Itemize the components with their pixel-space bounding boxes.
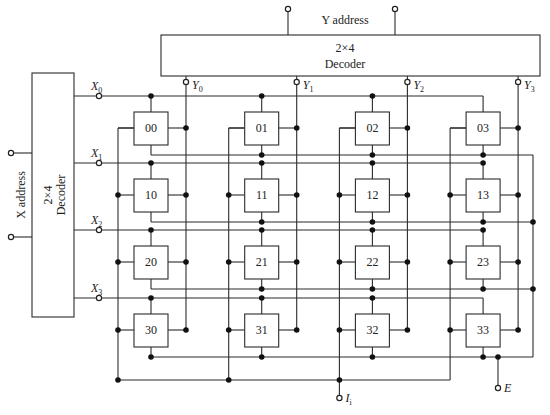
x-decoder: X address 2×4 Decoder [8, 73, 74, 317]
out-bus-dot [530, 219, 536, 225]
in-junction-dot [226, 259, 232, 265]
out-junction-dot [370, 152, 376, 158]
in-junction-dot [115, 192, 121, 198]
x-junction-dot [480, 227, 486, 233]
out-junction-dot [370, 219, 376, 225]
y-output-terminal-3 [516, 79, 521, 84]
input-label: Ii [344, 391, 352, 407]
y-junction-dot [515, 125, 521, 131]
y-decoder-title-line2: Decoder [325, 57, 366, 71]
memory-cell-label: 10 [145, 188, 157, 202]
y-output-label-3: Y3 [524, 78, 535, 94]
bus-junction-dot [337, 377, 343, 383]
y-junction-dot [515, 327, 521, 333]
x-junction-dot [259, 295, 265, 301]
memory-cell-label: 20 [145, 255, 157, 269]
x-output-label-2: X2 [90, 213, 102, 229]
bus-junction-dot [115, 377, 121, 383]
bus-junction-dot [226, 377, 232, 383]
y-junction-dot [515, 192, 521, 198]
y-output-terminal-2 [405, 79, 410, 84]
x-junction-dot [148, 160, 154, 166]
memory-cell-label: 11 [256, 188, 268, 202]
y-junction-dot [294, 192, 300, 198]
y-address-terminal-0 [285, 6, 290, 11]
out-junction-dot [259, 354, 265, 360]
memory-cell-label: 21 [256, 255, 268, 269]
out-bus-dot [530, 286, 536, 292]
x-junction-dot [148, 227, 154, 233]
x-address-terminal-1 [8, 234, 13, 239]
x-output-label-1: X1 [90, 146, 102, 162]
y-junction-dot [183, 192, 189, 198]
out-junction-dot [370, 354, 376, 360]
y-junction-dot [405, 192, 411, 198]
y-junction-dot [405, 259, 411, 265]
y-output-terminal-0 [183, 79, 188, 84]
y-junction-dot [294, 327, 300, 333]
out-junction-dot [259, 219, 265, 225]
x-address-terminal-0 [8, 150, 13, 155]
enable-terminal [495, 385, 500, 390]
out-junction-dot [259, 286, 265, 292]
x-junction-dot [148, 295, 154, 301]
memory-cell-label: 00 [145, 121, 157, 135]
memory-cell-label: 33 [477, 323, 489, 337]
x-junction-dot [370, 93, 376, 99]
y-junction-dot [294, 125, 300, 131]
y-junction-dot [294, 259, 300, 265]
out-junction-dot [480, 219, 486, 225]
in-junction-dot [447, 192, 453, 198]
x-junction-dot [259, 227, 265, 233]
enable-junction-dot [495, 354, 501, 360]
x-junction-dot [370, 160, 376, 166]
y-junction-dot [183, 125, 189, 131]
x-address-label: X address [14, 171, 28, 219]
y-junction-dot [515, 259, 521, 265]
memory-cell-label: 13 [477, 188, 489, 202]
in-junction-dot [226, 192, 232, 198]
in-junction-dot [226, 327, 232, 333]
x-decoder-title-line1: 2×4 [41, 186, 55, 205]
y-output-label-1: Y1 [303, 78, 314, 94]
memory-cell-label: 30 [145, 323, 157, 337]
y-decoder: Y address 2×4 Decoder [161, 6, 540, 76]
y-junction-dot [405, 327, 411, 333]
memory-cell-label: 31 [256, 323, 268, 337]
out-junction-dot [480, 354, 486, 360]
x-junction-dot [370, 295, 376, 301]
y-junction-dot [405, 125, 411, 131]
in-junction-dot [337, 327, 343, 333]
out-junction-dot [370, 286, 376, 292]
y-address-terminal-1 [392, 6, 397, 11]
x-output-label-3: X3 [90, 281, 102, 297]
in-junction-dot [115, 259, 121, 265]
x-junction-dot [370, 227, 376, 233]
memory-cell-label: 03 [477, 121, 489, 135]
out-junction-dot [480, 152, 486, 158]
memory-cell-label: 23 [477, 255, 489, 269]
out-junction-dot [148, 354, 154, 360]
y-decoder-title-line1: 2×4 [336, 41, 355, 55]
in-junction-dot [337, 192, 343, 198]
y-junction-dot [183, 327, 189, 333]
x-junction-dot [148, 93, 154, 99]
in-junction-dot [447, 327, 453, 333]
out-junction-dot [259, 152, 265, 158]
out-junction-dot [480, 286, 486, 292]
in-junction-dot [447, 259, 453, 265]
x-decoder-title-line2: Decoder [54, 175, 68, 216]
y-output-label-2: Y2 [413, 78, 424, 94]
in-junction-dot [115, 327, 121, 333]
memory-array-diagram: Y address 2×4 Decoder X address 2×4 Deco… [0, 0, 550, 415]
y-address-label: Y address [321, 13, 369, 27]
memory-cell-label: 12 [366, 188, 378, 202]
y-output-label-0: Y0 [192, 78, 203, 94]
x-junction-dot [259, 160, 265, 166]
input-terminal [337, 395, 342, 400]
memory-cell-label: 22 [366, 255, 378, 269]
x-junction-dot [480, 160, 486, 166]
memory-cell-label: 01 [256, 121, 268, 135]
y-output-terminal-1 [294, 79, 299, 84]
enable-label: E [503, 381, 512, 395]
